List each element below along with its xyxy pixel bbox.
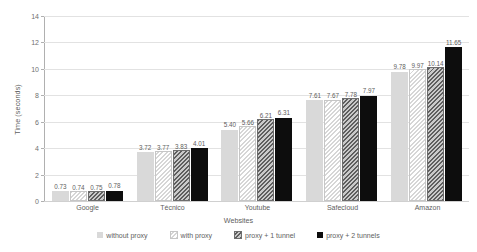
bar[interactable]: 7.67 xyxy=(324,100,341,201)
bar-slot: 7.61 xyxy=(306,16,323,201)
bar-value-label: 7.78 xyxy=(345,92,357,98)
bar[interactable]: 4.01 xyxy=(191,148,208,201)
bar-value-label: 7.67 xyxy=(327,93,339,99)
legend-item[interactable]: without proxy xyxy=(97,232,147,239)
y-tick-label: 4 xyxy=(35,145,39,152)
bar-value-label: 7.97 xyxy=(363,88,375,94)
bar-groups: 0.730.740.750.783.723.773.834.015.405.66… xyxy=(45,16,469,201)
bar-slot: 3.83 xyxy=(173,16,190,201)
bar[interactable]: 5.40 xyxy=(221,130,238,201)
y-tick-label: 12 xyxy=(31,39,39,46)
bar-slot: 5.66 xyxy=(239,16,256,201)
y-tick-mark xyxy=(41,95,44,96)
bar-value-label: 0.73 xyxy=(54,184,66,190)
bar-group: 7.617.677.787.97 xyxy=(299,16,384,201)
bar-slot: 0.73 xyxy=(52,16,69,201)
x-category-label: Google xyxy=(45,204,130,211)
bar-value-label: 7.61 xyxy=(309,93,321,99)
bar-value-label: 10.14 xyxy=(428,61,444,67)
bar-value-label: 4.01 xyxy=(193,141,205,147)
legend: without proxywith proxyproxy + 1 tunnelp… xyxy=(0,231,477,239)
bar[interactable]: 7.61 xyxy=(306,100,323,201)
legend-label: without proxy xyxy=(106,232,147,239)
bar-value-label: 0.75 xyxy=(90,185,102,191)
bar-value-label: 3.83 xyxy=(175,144,187,150)
bar-slot: 7.97 xyxy=(360,16,377,201)
bar[interactable]: 9.97 xyxy=(409,69,426,201)
bar[interactable]: 0.78 xyxy=(106,191,123,201)
bar-value-label: 5.66 xyxy=(242,120,254,126)
x-category-label: Safecloud xyxy=(300,204,385,211)
bar-slot: 4.01 xyxy=(191,16,208,201)
y-tick-label: 6 xyxy=(35,118,39,125)
bar-slot: 7.67 xyxy=(324,16,341,201)
bar[interactable]: 6.21 xyxy=(257,119,274,201)
bar-group: 9.789.9710.1411.65 xyxy=(384,16,469,201)
bar-value-label: 6.31 xyxy=(278,110,290,116)
y-tick-label: 2 xyxy=(35,171,39,178)
legend-item[interactable]: proxy + 1 tunnel xyxy=(234,231,295,239)
bar[interactable]: 3.83 xyxy=(173,150,190,201)
legend-swatch-icon xyxy=(170,231,178,239)
bar-slot: 3.77 xyxy=(155,16,172,201)
bar-slot: 5.40 xyxy=(221,16,238,201)
bar[interactable]: 7.78 xyxy=(342,98,359,201)
bar[interactable]: 3.72 xyxy=(137,152,154,201)
x-axis-title: Websites xyxy=(0,216,477,225)
y-tick-mark xyxy=(41,69,44,70)
y-tick-label: 10 xyxy=(31,65,39,72)
bar-value-label: 9.78 xyxy=(393,64,405,70)
bar[interactable]: 0.75 xyxy=(88,191,105,201)
bar-slot: 6.31 xyxy=(275,16,292,201)
legend-swatch-icon xyxy=(97,232,103,238)
y-tick-mark xyxy=(41,122,44,123)
x-category-label: Youtube xyxy=(215,204,300,211)
legend-swatch-icon xyxy=(234,231,242,239)
bar-slot: 9.78 xyxy=(391,16,408,201)
y-tick-label: 0 xyxy=(35,198,39,205)
bar[interactable]: 9.78 xyxy=(391,72,408,201)
bar[interactable]: 5.66 xyxy=(239,126,256,201)
bar[interactable]: 7.97 xyxy=(360,96,377,201)
x-category-label: Técnico xyxy=(130,204,215,211)
y-tick-mark xyxy=(41,175,44,176)
bar-slot: 11.65 xyxy=(445,16,462,201)
y-tick-label: 8 xyxy=(35,92,39,99)
bar-slot: 0.75 xyxy=(88,16,105,201)
y-tick-mark xyxy=(41,42,44,43)
bar-slot: 7.78 xyxy=(342,16,359,201)
bar-value-label: 3.72 xyxy=(139,145,151,151)
bar-slot: 3.72 xyxy=(137,16,154,201)
bar-group: 3.723.773.834.01 xyxy=(130,16,215,201)
bar-value-label: 9.97 xyxy=(411,63,423,69)
bar-slot: 0.74 xyxy=(70,16,87,201)
bar-group: 0.730.740.750.78 xyxy=(45,16,130,201)
x-category-labels: GoogleTécnicoYoutubeSafecloudAmazon xyxy=(45,204,470,211)
bar[interactable]: 0.73 xyxy=(52,191,69,201)
bar-value-label: 6.21 xyxy=(260,113,272,119)
bar-slot: 0.78 xyxy=(106,16,123,201)
bar-slot: 6.21 xyxy=(257,16,274,201)
bar-value-label: 5.40 xyxy=(224,122,236,128)
bar-slot: 10.14 xyxy=(427,16,444,201)
legend-label: proxy + 1 tunnel xyxy=(245,232,295,239)
legend-item[interactable]: with proxy xyxy=(170,231,213,239)
bar[interactable]: 6.31 xyxy=(275,118,292,201)
bar[interactable]: 3.77 xyxy=(155,151,172,201)
bar-value-label: 0.74 xyxy=(72,185,84,191)
y-axis-title: Time (seconds) xyxy=(13,55,22,165)
y-tick-mark xyxy=(41,16,44,17)
bar-value-label: 0.78 xyxy=(108,183,120,189)
bar-slot: 9.97 xyxy=(409,16,426,201)
gridline xyxy=(44,201,469,202)
bar-value-label: 3.77 xyxy=(157,145,169,151)
bar[interactable]: 11.65 xyxy=(445,47,462,201)
bar[interactable]: 0.74 xyxy=(70,191,87,201)
y-tick-mark xyxy=(41,148,44,149)
bar[interactable]: 10.14 xyxy=(427,67,444,201)
legend-item[interactable]: proxy + 2 tunnels xyxy=(317,232,380,239)
plot-inner: 02468101214 0.730.740.750.783.723.773.83… xyxy=(44,16,469,201)
plot-area: 02468101214 0.730.740.750.783.723.773.83… xyxy=(44,16,469,201)
y-tick-mark xyxy=(41,201,44,202)
bar-group: 5.405.666.216.31 xyxy=(215,16,300,201)
